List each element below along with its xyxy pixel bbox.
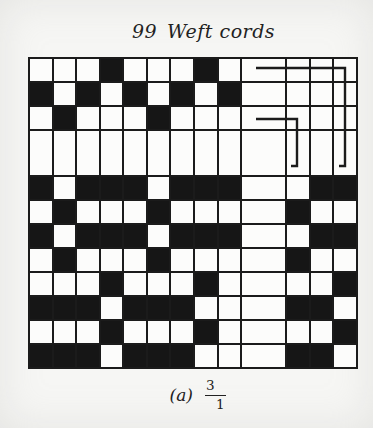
weave-cell-r4-c12 <box>311 131 333 175</box>
weave-cell-r8-c8 <box>195 249 217 271</box>
weave-cell-r11-c2 <box>54 321 76 343</box>
weave-cell-r9-c11 <box>287 273 309 295</box>
weave-cell-r1-c1 <box>30 59 52 81</box>
weave-cell-r7-c5 <box>124 225 146 247</box>
weave-cell-r3-c10 <box>242 107 285 129</box>
weave-cell-r11-c12 <box>311 321 333 343</box>
weave-cell-r9-c5 <box>124 273 146 295</box>
weave-cell-r12-c5 <box>124 345 146 367</box>
caption-label: (a) <box>170 385 193 405</box>
weave-cell-r6-c4 <box>101 201 123 223</box>
weave-cell-r10-c7 <box>171 297 193 319</box>
weave-cell-r11-c7 <box>171 321 193 343</box>
weave-cell-r10-c2 <box>54 297 76 319</box>
weave-cell-r4-c10 <box>242 131 285 175</box>
weave-cell-r2-c4 <box>101 83 123 105</box>
fraction-numerator: 3 <box>205 379 226 396</box>
weave-cell-r2-c13 <box>334 83 356 105</box>
weave-cell-r5-c9 <box>219 177 241 199</box>
weave-cell-r3-c2 <box>54 107 76 129</box>
weave-cell-r1-c3 <box>77 59 99 81</box>
weave-cell-r3-c4 <box>101 107 123 129</box>
weave-cell-r4-c1 <box>30 131 52 175</box>
weave-cell-r9-c7 <box>171 273 193 295</box>
weave-cell-r10-c4 <box>101 297 123 319</box>
weave-cell-r3-c7 <box>171 107 193 129</box>
caption-fraction: 31 <box>205 379 226 411</box>
scanned-figure-page: 99Weft cords (a)31 <box>0 0 373 428</box>
weave-cell-r1-c12 <box>311 59 333 81</box>
weave-cell-r7-c12 <box>311 225 333 247</box>
weave-cell-r7-c6 <box>148 225 170 247</box>
weave-cell-r6-c9 <box>219 201 241 223</box>
weave-cell-r9-c10 <box>242 273 285 295</box>
weave-cell-r3-c9 <box>219 107 241 129</box>
weave-cell-r5-c1 <box>30 177 52 199</box>
weave-cell-r2-c5 <box>124 83 146 105</box>
weave-cell-r9-c13 <box>334 273 356 295</box>
weave-cell-r9-c1 <box>30 273 52 295</box>
weave-cell-r6-c11 <box>287 201 309 223</box>
weave-cell-r5-c12 <box>311 177 333 199</box>
weave-cell-r6-c8 <box>195 201 217 223</box>
weave-cell-r1-c8 <box>195 59 217 81</box>
weave-cell-r3-c3 <box>77 107 99 129</box>
weave-cell-r8-c4 <box>101 249 123 271</box>
weave-cell-r2-c3 <box>77 83 99 105</box>
weave-cell-r4-c5 <box>124 131 146 175</box>
weave-cell-r4-c7 <box>171 131 193 175</box>
weave-cell-r8-c11 <box>287 249 309 271</box>
weave-cell-r11-c10 <box>242 321 285 343</box>
weave-cell-r3-c12 <box>311 107 333 129</box>
weave-cell-r2-c2 <box>54 83 76 105</box>
weave-cell-r12-c3 <box>77 345 99 367</box>
weave-cell-r12-c11 <box>287 345 309 367</box>
weave-cell-r10-c12 <box>311 297 333 319</box>
weave-cell-r10-c5 <box>124 297 146 319</box>
weave-cell-r2-c11 <box>287 83 309 105</box>
weave-cell-r10-c3 <box>77 297 99 319</box>
weave-cell-r11-c8 <box>195 321 217 343</box>
weave-cell-r8-c9 <box>219 249 241 271</box>
weave-cell-r9-c2 <box>54 273 76 295</box>
weave-cell-r5-c11 <box>287 177 309 199</box>
weave-cell-r7-c3 <box>77 225 99 247</box>
weave-cell-r6-c7 <box>171 201 193 223</box>
weave-cell-r7-c7 <box>171 225 193 247</box>
weave-cell-r12-c12 <box>311 345 333 367</box>
weave-cell-r8-c6 <box>148 249 170 271</box>
weave-cell-r5-c3 <box>77 177 99 199</box>
weave-cell-r6-c5 <box>124 201 146 223</box>
weave-cell-r11-c11 <box>287 321 309 343</box>
weave-cell-r2-c12 <box>311 83 333 105</box>
weave-cell-r10-c8 <box>195 297 217 319</box>
weave-cell-r4-c11 <box>287 131 309 175</box>
weave-cell-r6-c2 <box>54 201 76 223</box>
weave-cell-r5-c2 <box>54 177 76 199</box>
weave-cell-r11-c4 <box>101 321 123 343</box>
weave-cell-r1-c6 <box>148 59 170 81</box>
fraction-denominator: 1 <box>205 396 226 412</box>
weave-cell-r3-c13 <box>334 107 356 129</box>
weave-cell-r5-c4 <box>101 177 123 199</box>
weave-cell-r12-c7 <box>171 345 193 367</box>
weave-cell-r5-c10 <box>242 177 285 199</box>
weave-cell-r1-c7 <box>171 59 193 81</box>
weave-cell-r9-c8 <box>195 273 217 295</box>
weave-grid <box>28 57 358 369</box>
weave-cell-r9-c4 <box>101 273 123 295</box>
weave-cell-r10-c13 <box>334 297 356 319</box>
weave-cell-r1-c4 <box>101 59 123 81</box>
weave-cell-r3-c5 <box>124 107 146 129</box>
weave-cell-r8-c13 <box>334 249 356 271</box>
weave-cell-r4-c13 <box>334 131 356 175</box>
weave-cell-r8-c7 <box>171 249 193 271</box>
weave-cell-r4-c3 <box>77 131 99 175</box>
weave-cell-r10-c1 <box>30 297 52 319</box>
figure-number: 99 <box>132 20 157 42</box>
weave-cell-r6-c13 <box>334 201 356 223</box>
weave-cell-r12-c9 <box>219 345 241 367</box>
weave-cell-r12-c10 <box>242 345 285 367</box>
weave-cell-r2-c6 <box>148 83 170 105</box>
weave-cell-r11-c6 <box>148 321 170 343</box>
